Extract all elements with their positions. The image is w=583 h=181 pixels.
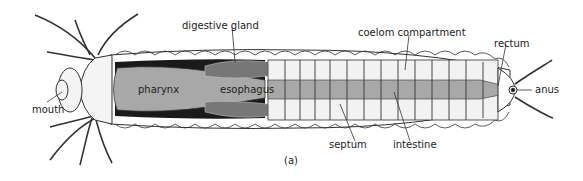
tail bbox=[498, 68, 517, 112]
label-pharynx: pharynx bbox=[138, 84, 179, 95]
label-coelom-compartment: coelom compartment bbox=[358, 27, 466, 38]
label-esophagus: esophagus bbox=[220, 84, 274, 95]
label-intestine: intestine bbox=[393, 139, 437, 150]
worm-anatomy-diagram bbox=[0, 0, 583, 181]
label-anus: anus bbox=[535, 84, 559, 95]
figure-caption: (a) bbox=[284, 155, 298, 166]
label-rectum: rectum bbox=[494, 38, 530, 49]
intestine bbox=[268, 80, 505, 99]
label-septum: septum bbox=[329, 139, 367, 150]
label-digestive-gland: digestive gland bbox=[182, 20, 259, 31]
label-mouth: mouth bbox=[32, 104, 64, 115]
